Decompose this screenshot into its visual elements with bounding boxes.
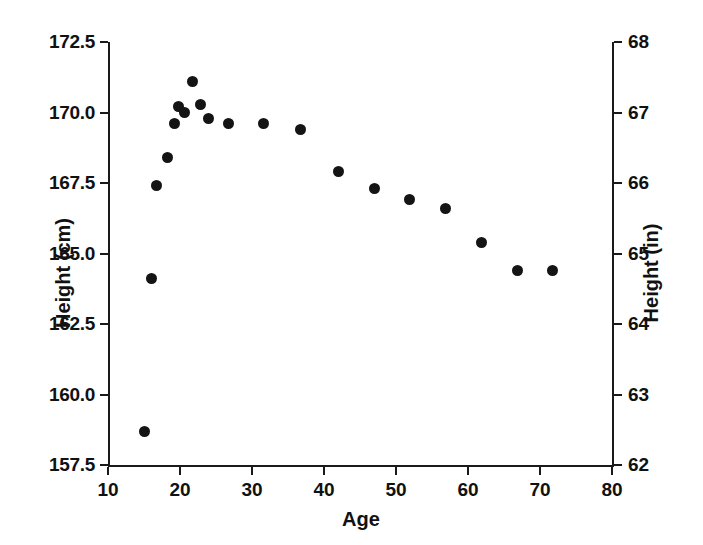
x-axis-tick (395, 467, 397, 475)
y-axis-right-tick-label: 65 (628, 243, 649, 265)
y-axis-left-tick (100, 394, 108, 396)
y-axis-left-tick (100, 182, 108, 184)
data-point (187, 76, 198, 87)
y-axis-right-tick (614, 112, 622, 114)
x-axis-tick-label: 30 (241, 479, 262, 501)
x-axis-tick-label: 40 (313, 479, 334, 501)
data-point (146, 273, 157, 284)
y-axis-right-tick-label: 64 (628, 313, 649, 335)
y-axis-left-line (108, 42, 110, 467)
y-axis-left-tick (100, 112, 108, 114)
y-axis-left-tick-label: 172.5 (49, 31, 95, 53)
y-axis-right-tick (614, 323, 622, 325)
y-axis-left-tick-label: 165.0 (49, 243, 95, 265)
y-axis-left-tick (100, 323, 108, 325)
data-point (179, 107, 190, 118)
scatter-chart-figure: Height (cm) Height (in) Age 157.5160.016… (0, 0, 703, 545)
data-point (258, 118, 269, 129)
y-axis-right-tick (614, 182, 622, 184)
y-axis-left-tick (100, 464, 108, 466)
y-axis-left-tick-label: 170.0 (49, 102, 95, 124)
y-axis-right-tick (614, 41, 622, 43)
x-axis-tick (539, 467, 541, 475)
data-point (203, 113, 214, 124)
y-axis-right-tick-label: 63 (628, 384, 649, 406)
x-axis-tick (251, 467, 253, 475)
y-axis-left-tick-label: 157.5 (49, 454, 95, 476)
y-axis-left-tick-label: 167.5 (49, 172, 95, 194)
data-point (151, 180, 162, 191)
data-point (223, 118, 234, 129)
y-axis-left-tick-label: 162.5 (49, 313, 95, 335)
x-axis-title: Age (108, 508, 614, 531)
data-point (369, 183, 380, 194)
y-axis-right-tick-label: 67 (628, 102, 649, 124)
y-axis-right-tick (614, 464, 622, 466)
y-axis-right-tick (614, 394, 622, 396)
data-point (476, 237, 487, 248)
y-axis-right-tick-label: 66 (628, 172, 649, 194)
x-axis-tick-label: 80 (601, 479, 622, 501)
y-axis-left-tick-label: 160.0 (49, 384, 95, 406)
data-point (162, 152, 173, 163)
plot-area: 157.5160.0162.5165.0167.5170.0172.5 6263… (108, 42, 614, 467)
data-point (440, 203, 451, 214)
x-axis-tick-label: 10 (97, 479, 118, 501)
data-point (169, 118, 180, 129)
data-point (512, 265, 523, 276)
y-axis-right-title: Height (in) (640, 223, 663, 322)
y-axis-right-tick (614, 253, 622, 255)
x-axis-tick-label: 50 (385, 479, 406, 501)
data-point (404, 194, 415, 205)
x-axis-tick (467, 467, 469, 475)
y-axis-left-tick (100, 41, 108, 43)
x-axis-tick-label: 60 (457, 479, 478, 501)
data-point (333, 166, 344, 177)
x-axis-tick-label: 70 (529, 479, 550, 501)
data-point (195, 99, 206, 110)
data-point (547, 265, 558, 276)
data-point (295, 124, 306, 135)
x-axis-tick (323, 467, 325, 475)
y-axis-left-tick (100, 253, 108, 255)
y-axis-right-line (612, 42, 614, 467)
x-axis-tick (179, 467, 181, 475)
x-axis-tick (611, 467, 613, 475)
data-point (139, 426, 150, 437)
x-axis-tick-label: 20 (169, 479, 190, 501)
x-axis-tick (107, 467, 109, 475)
y-axis-right-tick-label: 62 (628, 454, 649, 476)
y-axis-left-title: Height (cm) (52, 218, 75, 328)
y-axis-right-tick-label: 68 (628, 31, 649, 53)
